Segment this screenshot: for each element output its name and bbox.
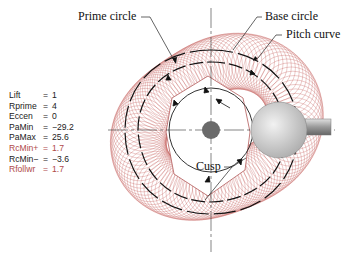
parameter-value: 4 [52,101,57,112]
pitch-curve-label: Pitch curve [286,27,340,41]
parameter-eq: = [43,101,52,112]
parameter-list: Lift=1Rprime=4Eccen=0PaMin=−29.2PaMax=25… [9,90,74,175]
follower-stem [305,119,331,135]
base-circle-label: Base circle [265,9,318,23]
parameter-eq: = [43,164,52,175]
parameter-name: RcMin− [9,154,43,165]
cusp-label: Cusp [196,159,221,173]
parameter-eq: = [43,111,52,122]
parameter-row: PaMax=25.6 [9,132,74,143]
parameter-value: 1 [52,90,57,101]
parameter-eq: = [43,132,52,143]
parameter-name: Lift [9,90,43,101]
parameter-name: PaMax [9,132,43,143]
parameter-name: Rprime [9,101,43,112]
parameter-row: Rprime=4 [9,101,74,112]
parameter-value: 1.7 [52,143,64,154]
roller-follower [251,102,307,158]
envelope-roller-position [111,125,167,181]
parameter-value: 25.6 [52,132,69,143]
camshaft-hub [202,121,220,139]
parameter-eq: = [43,90,52,101]
parameter-value: 0 [52,111,57,122]
parameter-value: 1.7 [52,164,64,175]
parameter-row: PaMin=−29.2 [9,122,74,133]
parameter-eq: = [43,154,52,165]
parameter-row: Eccen=0 [9,111,74,122]
parameter-name: PaMin [9,122,43,133]
parameter-name: RcMin+ [9,143,43,154]
parameter-name: Eccen [9,111,43,122]
parameter-name: Rfollwr [9,164,43,175]
parameter-value: −29.2 [52,122,74,133]
parameter-row: Lift=1 [9,90,74,101]
parameter-value: −3.6 [52,154,69,165]
prime-circle-label: Prime circle [78,9,136,23]
parameter-eq: = [43,143,52,154]
parameter-row: RcMin+=1.7 [9,143,74,154]
parameter-row: RcMin−=−3.6 [9,154,74,165]
parameter-eq: = [43,122,52,133]
parameter-row: Rfollwr=1.7 [9,164,74,175]
